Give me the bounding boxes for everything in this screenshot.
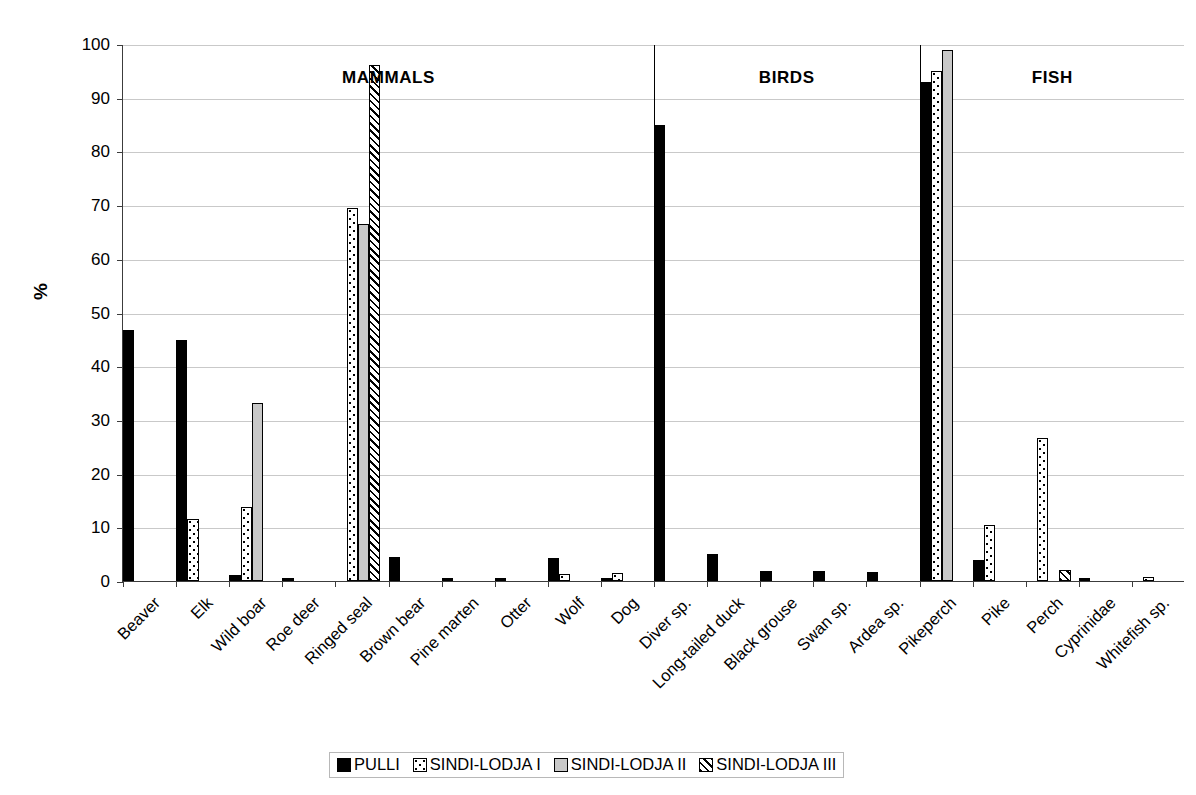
x-axis-tick-mark bbox=[123, 581, 124, 587]
bar bbox=[1037, 438, 1048, 581]
y-axis-tick-mark bbox=[117, 528, 123, 529]
y-axis-tick-mark bbox=[117, 475, 123, 476]
bar bbox=[601, 578, 612, 581]
x-axis-tick-label: Beaver bbox=[114, 594, 163, 643]
y-axis-tick-label: 0 bbox=[70, 573, 110, 590]
x-axis-tick-mark bbox=[813, 581, 814, 587]
x-axis-tick-mark bbox=[1026, 581, 1027, 587]
bar bbox=[241, 507, 252, 581]
bar bbox=[973, 560, 984, 581]
bar bbox=[612, 573, 623, 581]
x-axis-tick-mark bbox=[707, 581, 708, 587]
x-axis-tick-mark bbox=[920, 581, 921, 587]
y-axis-tick-mark bbox=[117, 421, 123, 422]
y-axis-tick-label: 50 bbox=[70, 305, 110, 322]
y-axis-tick-label: 100 bbox=[70, 36, 110, 53]
x-axis-tick-label: Otter bbox=[497, 594, 535, 632]
legend-label: PULLI bbox=[354, 756, 400, 773]
bar-chart: % 1009080706050403020100 MAMMALSBIRDSFIS… bbox=[0, 0, 1196, 795]
x-axis-tick-mark bbox=[548, 581, 549, 587]
x-axis-tick-label: Dog bbox=[608, 594, 641, 627]
bar bbox=[252, 403, 263, 581]
x-axis-tick-mark bbox=[282, 581, 283, 587]
group-separator bbox=[654, 45, 655, 581]
x-axis-tick-mark bbox=[176, 581, 177, 587]
x-axis-tick-mark bbox=[654, 581, 655, 587]
legend-swatch-sindi-lodja-2 bbox=[554, 758, 568, 772]
legend-item: SINDI-LODJA III bbox=[699, 756, 836, 773]
bar bbox=[942, 50, 953, 581]
y-axis-tick-label: 70 bbox=[70, 197, 110, 214]
x-axis-tick-mark bbox=[495, 581, 496, 587]
y-axis-title: % bbox=[30, 283, 52, 300]
group-header: MAMMALS bbox=[342, 68, 435, 88]
x-axis-tick-mark bbox=[389, 581, 390, 587]
bar bbox=[347, 208, 358, 581]
legend-item: SINDI-LODJA I bbox=[413, 756, 541, 773]
x-axis-tick-mark bbox=[760, 581, 761, 587]
bar bbox=[559, 574, 570, 581]
x-axis-tick-label: Elk bbox=[188, 594, 216, 622]
y-axis-tick-mark bbox=[117, 45, 123, 46]
plot-area: MAMMALSBIRDSFISH bbox=[122, 45, 1184, 582]
x-axis-tick-mark bbox=[973, 581, 974, 587]
bar bbox=[389, 557, 400, 581]
bar bbox=[1079, 578, 1090, 581]
legend-item: PULLI bbox=[337, 756, 400, 773]
legend-label: SINDI-LODJA III bbox=[716, 756, 836, 773]
group-separator bbox=[920, 45, 921, 581]
y-axis-tick-label: 30 bbox=[70, 412, 110, 429]
x-axis-tick-mark bbox=[442, 581, 443, 587]
group-header: BIRDS bbox=[759, 68, 815, 88]
bar bbox=[187, 519, 198, 581]
bar bbox=[1143, 577, 1154, 581]
x-axis-tick-mark bbox=[1132, 581, 1133, 587]
bar bbox=[229, 575, 240, 581]
bar bbox=[548, 558, 559, 581]
bar bbox=[123, 330, 134, 581]
bar bbox=[931, 71, 942, 581]
bar bbox=[654, 125, 665, 581]
y-axis-tick-label: 90 bbox=[70, 90, 110, 107]
x-axis-tick-label: Pikeperch bbox=[896, 594, 960, 658]
x-axis-tick-mark bbox=[335, 581, 336, 587]
y-axis-tick-mark bbox=[117, 152, 123, 153]
x-axis-tick-label: Pike bbox=[978, 594, 1013, 629]
y-axis-tick-mark bbox=[117, 314, 123, 315]
bar bbox=[442, 578, 453, 581]
group-header: FISH bbox=[1032, 68, 1073, 88]
y-axis-tick-mark bbox=[117, 260, 123, 261]
x-axis-tick-label: Perch bbox=[1023, 594, 1066, 637]
y-axis-tick-label: 60 bbox=[70, 251, 110, 268]
x-axis-tick-mark bbox=[601, 581, 602, 587]
x-axis-tick-mark bbox=[1079, 581, 1080, 587]
bar bbox=[358, 224, 369, 581]
bar bbox=[760, 571, 771, 581]
legend-swatch-sindi-lodja-1 bbox=[413, 758, 427, 772]
bar bbox=[495, 578, 506, 581]
y-axis-tick-label: 10 bbox=[70, 519, 110, 536]
bar bbox=[707, 554, 718, 581]
y-axis-tick-mark bbox=[117, 99, 123, 100]
x-axis-tick-label: Swan sp. bbox=[794, 594, 854, 654]
bar bbox=[867, 572, 878, 581]
legend-label: SINDI-LODJA I bbox=[430, 756, 541, 773]
x-axis-tick-mark bbox=[866, 581, 867, 587]
x-axis-tick-label: Wild boar bbox=[208, 594, 269, 655]
legend-label: SINDI-LODJA II bbox=[571, 756, 687, 773]
legend-item: SINDI-LODJA II bbox=[554, 756, 687, 773]
legend: PULLI SINDI-LODJA I SINDI-LODJA II SINDI… bbox=[329, 752, 844, 778]
bar bbox=[1059, 570, 1070, 581]
y-axis-tick-mark bbox=[117, 206, 123, 207]
bar bbox=[984, 525, 995, 581]
x-axis-tick-mark bbox=[229, 581, 230, 587]
y-axis-tick-label: 40 bbox=[70, 358, 110, 375]
y-axis-tick-mark bbox=[117, 367, 123, 368]
bar bbox=[369, 65, 380, 581]
x-axis-tick-label: Wolf bbox=[553, 594, 588, 629]
bar bbox=[176, 340, 187, 581]
y-axis-tick-label: 80 bbox=[70, 143, 110, 160]
legend-swatch-pulli bbox=[337, 758, 351, 772]
bar bbox=[282, 578, 293, 581]
bar bbox=[813, 571, 824, 581]
